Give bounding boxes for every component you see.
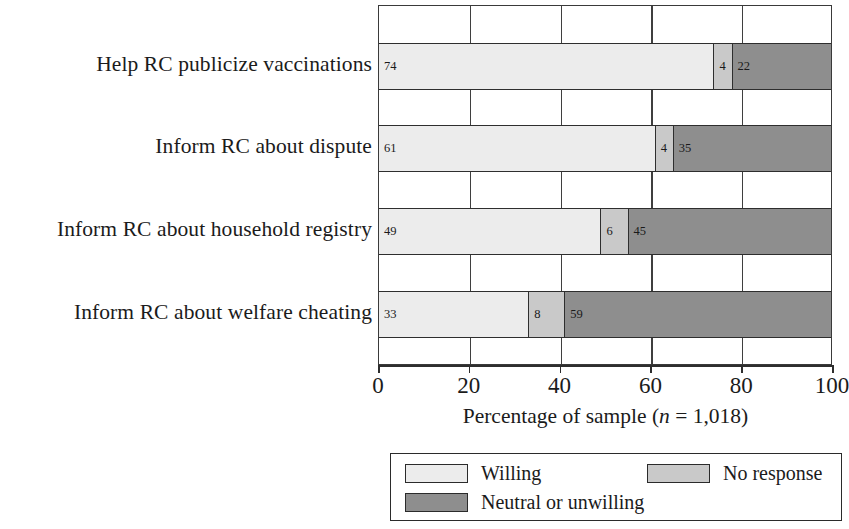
legend-swatch-no-response [647,464,710,483]
bar-segment: 33 [379,292,528,337]
legend-swatch-neutral-or-unwilling [405,493,468,512]
category-label: Help RC publicize vaccinations [0,54,372,76]
x-tick-label: 60 [639,374,662,397]
bar-row: 49645 [379,208,831,255]
bar-segment-value: 33 [379,308,397,321]
legend-entry-willing: Willing [405,463,541,483]
category-label: Inform RC about dispute [0,136,372,158]
bar-row: 74422 [379,43,831,90]
bar-segment-value: 45 [629,225,647,238]
x-tick-80 [741,365,743,373]
bar-segment-value: 61 [379,142,397,155]
category-label: Inform RC about household registry [0,219,372,241]
legend-swatch-willing [405,464,468,483]
bar-segment-value: 6 [601,225,612,238]
bar-segment: 22 [732,44,831,89]
x-tick-20 [469,365,471,373]
x-tick-label: 0 [372,374,384,397]
bar-segment: 49 [379,209,600,254]
bar-segment-value: 8 [529,308,540,321]
legend-label-no-response: No response [723,463,822,483]
x-axis-title-n: n [659,404,670,428]
bar-segment: 74 [379,44,713,89]
bar-segment: 4 [713,44,731,89]
x-tick-60 [650,365,652,373]
bar-segment: 61 [379,126,655,171]
bar-segment-value: 4 [656,142,667,155]
bar-segment-value: 35 [674,142,692,155]
legend-label-willing: Willing [481,463,541,483]
x-tick-40 [560,365,562,373]
chart-legend: Willing No response Neutral or unwilling [390,453,842,521]
x-axis-line [378,365,833,367]
category-axis-labels: Help RC publicize vaccinationsInform RC … [0,0,372,370]
bar-segment-value: 74 [379,60,397,73]
x-tick-label: 20 [457,374,480,397]
x-tick-label: 40 [548,374,571,397]
bar-segment: 35 [673,126,831,171]
bar-row: 61435 [379,125,831,172]
bar-segment: 8 [528,292,564,337]
bar-segment: 45 [628,209,831,254]
x-tick-100 [832,365,834,373]
x-axis-title: Percentage of sample (n = 1,018) [378,406,833,428]
bar-segment: 59 [564,292,831,337]
bar-segment: 6 [600,209,627,254]
plot-area: 74422614354964533859 [378,5,832,365]
stacked-bar-chart: Help RC publicize vaccinationsInform RC … [0,0,849,529]
bar-segment-value: 59 [565,308,583,321]
bar-row: 33859 [379,291,831,338]
bar-segment: 4 [655,126,673,171]
bar-segment-value: 22 [733,60,751,73]
x-tick-0 [378,365,380,373]
x-tick-label: 80 [730,374,753,397]
x-tick-label: 100 [815,374,849,397]
bar-segment-value: 4 [714,60,725,73]
legend-entry-no-response: No response [647,463,822,483]
legend-entry-neutral-or-unwilling: Neutral or unwilling [405,492,644,512]
bar-segment-value: 49 [379,225,397,238]
category-label: Inform RC about welfare cheating [0,302,372,324]
legend-label-neutral-or-unwilling: Neutral or unwilling [481,492,644,512]
